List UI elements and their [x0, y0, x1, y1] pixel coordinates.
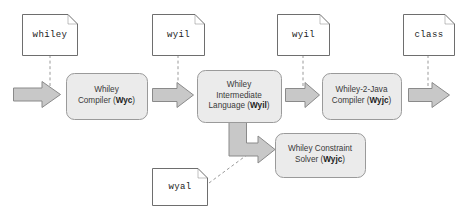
proc-whiley-compiler-shape [67, 74, 148, 120]
proc-wyil-shape [198, 71, 282, 123]
whiley-pipeline-diagram: whiley wyil wyil class wyal WhileyCompil… [0, 0, 475, 220]
arrow-source-to-compiler [14, 82, 61, 108]
diagram-canvas [0, 0, 475, 220]
proc-constraint-solver-shape [276, 134, 366, 178]
doc-wyil-1-shape [153, 15, 205, 56]
arrow-wyil-to-wyjc [286, 83, 320, 108]
doc-whiley-shape [23, 15, 78, 56]
doc-wyal-shape [153, 169, 208, 206]
doc-wyil-2-shape [278, 15, 330, 56]
arrow-wyil-to-solver [229, 121, 275, 163]
arrow-compiler-to-wyil [153, 83, 194, 108]
arrow-wyjc-to-class [409, 83, 450, 108]
doc-class-shape [404, 15, 455, 56]
proc-wyjc-shape [323, 74, 402, 120]
